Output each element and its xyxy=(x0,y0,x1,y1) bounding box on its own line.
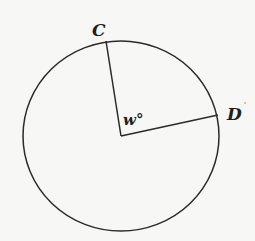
point-label-c: C xyxy=(92,20,106,40)
stray-dot xyxy=(244,102,246,104)
radius-to-C xyxy=(106,41,121,136)
circle-diagram: C D w° xyxy=(0,0,255,241)
angle-label-w: w° xyxy=(123,111,143,129)
point-label-d: D xyxy=(226,104,242,124)
